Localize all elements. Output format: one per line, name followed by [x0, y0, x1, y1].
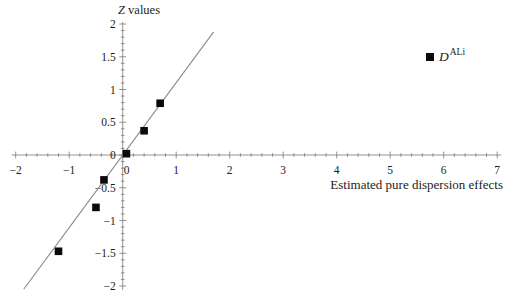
- normal-probability-plot: −2−101234567−2−1.5−1−0.500.511.52 Z valu…: [0, 0, 512, 305]
- fit-line: [24, 32, 214, 289]
- svg-text:0.5: 0.5: [101, 116, 116, 128]
- svg-text:5: 5: [387, 164, 393, 176]
- svg-text:3: 3: [280, 164, 286, 176]
- data-point-square: [156, 99, 164, 107]
- svg-text:−2: −2: [103, 280, 115, 292]
- svg-text:1: 1: [110, 84, 116, 96]
- svg-text:2: 2: [227, 164, 233, 176]
- svg-text:6: 6: [441, 164, 447, 176]
- svg-text:−2: −2: [10, 164, 22, 176]
- svg-text:0: 0: [110, 149, 116, 161]
- legend-label-superscript: ALi: [450, 47, 465, 57]
- y-axis-title-rest: values: [125, 3, 160, 17]
- fit-line-segment: [24, 32, 214, 289]
- data-point-square: [55, 247, 63, 255]
- y-axis-title-italic: Z: [118, 3, 125, 17]
- x-axis-label: Estimated pure dispersion effects: [330, 177, 503, 193]
- data-point-square: [123, 150, 131, 158]
- legend-label-base: D: [439, 49, 449, 65]
- legend-filled-square-icon: [426, 53, 434, 61]
- plot-canvas: −2−101234567−2−1.5−1−0.500.511.52: [0, 0, 512, 305]
- svg-text:4: 4: [334, 164, 340, 176]
- svg-text:−1.5: −1.5: [95, 247, 116, 259]
- svg-text:−1: −1: [103, 215, 115, 227]
- svg-text:2: 2: [110, 18, 116, 30]
- svg-text:1.5: 1.5: [101, 51, 116, 63]
- legend: D ALi: [426, 49, 465, 65]
- svg-text:1: 1: [173, 164, 179, 176]
- data-point-square: [140, 127, 148, 135]
- data-point-square: [92, 204, 100, 212]
- svg-text:0: 0: [124, 164, 130, 176]
- y-axis-title: Z values: [118, 3, 160, 18]
- svg-text:−1: −1: [63, 164, 75, 176]
- svg-text:7: 7: [494, 164, 500, 176]
- data-point-square: [100, 176, 108, 184]
- x-tick-labels: −2−101234567: [10, 164, 501, 176]
